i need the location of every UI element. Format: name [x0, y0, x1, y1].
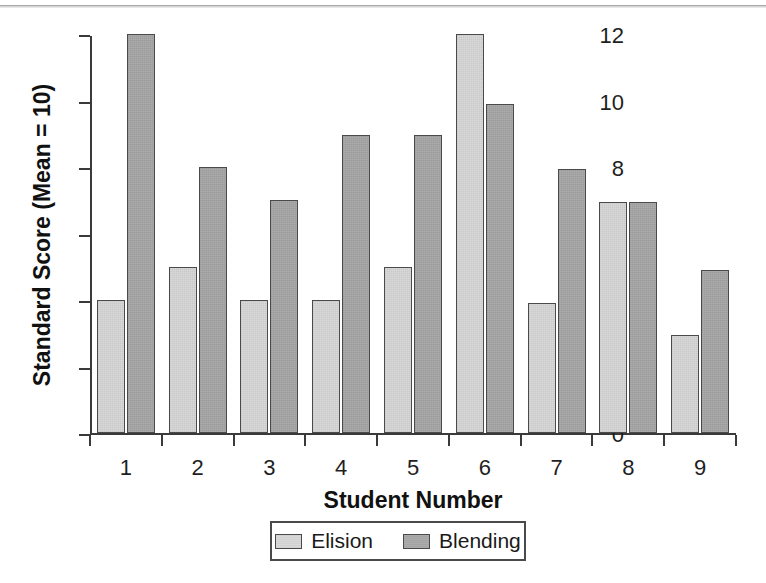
- x-axis-tick-label: 8: [622, 455, 634, 481]
- x-axis-tick-label: 7: [550, 455, 562, 481]
- x-axis-tick: [376, 435, 378, 446]
- bar-blending-student-5: [414, 135, 442, 433]
- bar-blending-student-3: [270, 200, 298, 433]
- bar-elision-student-2: [169, 267, 197, 433]
- bar-blending-student-6: [486, 104, 514, 433]
- bar-blending-student-4: [342, 135, 370, 433]
- x-axis-tick: [233, 435, 235, 446]
- bar-elision-student-8: [599, 202, 627, 433]
- figure: Standard Score (Mean = 10) 024681012 123…: [0, 0, 766, 583]
- scan-artifact-line-secondary: [0, 7, 766, 8]
- bar-elision-student-4: [312, 300, 340, 433]
- x-axis-tick-label: 2: [192, 455, 204, 481]
- x-axis-tick: [735, 435, 737, 446]
- legend-swatch-icon: [275, 534, 302, 549]
- x-axis-tick-label: 4: [335, 455, 347, 481]
- x-axis-tick: [520, 435, 522, 446]
- y-axis-tick-label: 10: [564, 90, 624, 116]
- x-axis-tick: [161, 435, 163, 446]
- x-axis-tick: [448, 435, 450, 446]
- legend-entry-elision[interactable]: Elision: [275, 529, 373, 553]
- y-axis-tick: [79, 102, 90, 104]
- y-axis-line: [90, 36, 92, 435]
- bar-blending-student-1: [127, 34, 155, 433]
- y-axis-tick: [79, 168, 90, 170]
- legend-swatch-icon: [403, 534, 430, 549]
- bar-elision-student-9: [671, 335, 699, 433]
- x-axis-tick: [591, 435, 593, 446]
- y-axis-title: Standard Score (Mean = 10): [28, 40, 56, 430]
- bar-blending-student-2: [199, 167, 227, 433]
- legend-entry-blending[interactable]: Blending: [403, 529, 521, 553]
- y-axis-tick: [79, 35, 90, 37]
- bar-blending-student-9: [701, 270, 729, 433]
- x-axis-tick: [89, 435, 91, 446]
- chart-legend: ElisionBlending: [270, 521, 526, 561]
- x-axis-tick-label: 9: [694, 455, 706, 481]
- x-axis-title: Student Number: [90, 487, 736, 514]
- x-axis-tick: [663, 435, 665, 446]
- y-axis-tick-label: 12: [564, 23, 624, 49]
- x-axis-tick: [304, 435, 306, 446]
- bar-elision-student-6: [456, 34, 484, 433]
- legend-label: Blending: [439, 529, 521, 553]
- x-axis-tick-label: 6: [479, 455, 491, 481]
- bar-blending-student-7: [558, 169, 586, 433]
- bar-elision-student-1: [97, 300, 125, 433]
- x-axis-tick-label: 3: [263, 455, 275, 481]
- bar-elision-student-7: [528, 303, 556, 433]
- y-axis-tick: [79, 301, 90, 303]
- bar-elision-student-5: [384, 267, 412, 433]
- y-axis-title-text: Standard Score (Mean = 10): [29, 84, 56, 386]
- bar-elision-student-3: [240, 300, 268, 433]
- plot-area: 024681012 123456789: [90, 36, 736, 435]
- x-axis-tick-label: 5: [407, 455, 419, 481]
- y-axis-tick: [79, 368, 90, 370]
- x-axis-tick-label: 1: [120, 455, 132, 481]
- legend-label: Elision: [311, 529, 373, 553]
- bar-blending-student-8: [629, 202, 657, 433]
- x-axis-line: [90, 433, 736, 435]
- y-axis-tick: [79, 235, 90, 237]
